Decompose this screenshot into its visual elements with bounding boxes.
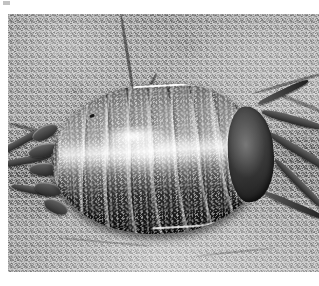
scan-artifact [3,1,10,5]
woodlouse [48,78,267,238]
photograph [8,14,319,272]
page-root [0,0,319,286]
